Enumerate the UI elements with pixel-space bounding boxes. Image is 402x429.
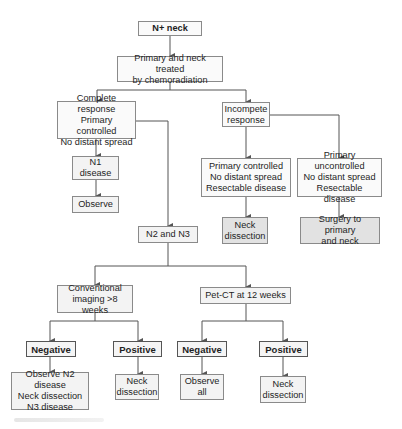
node-primary-controlled: Primary controlled No distant spread Res… [201,158,291,197]
node-neck-dissection-3: Neck dissection [260,376,306,403]
node-complete-response: Complete response Primary controlled No … [57,101,136,139]
node-positive-conventional: Positive [113,341,162,357]
node-neck-dissection-2: Neck dissection [115,374,159,400]
node-observe-all: Observe all [180,374,224,400]
node-n2-n3: N2 and N3 [138,226,198,243]
node-primary-uncontrolled: Primary uncontrolled No distant spread R… [297,158,382,197]
node-n-plus-neck: N+ neck [138,21,202,36]
node-neck-dissection-1: Neck dissection [222,217,268,244]
node-observe-n2-disease: Observe N2 disease Neck dissection N3 di… [11,372,89,410]
node-incomplete-response: Incompete response [222,102,270,127]
node-chemoradiation: Primary and neck treated by chemoradiati… [117,56,223,82]
faint-caption-smudge [14,418,104,422]
node-observe: Observe [72,196,119,213]
flowchart-canvas: N+ neck Primary and neck treated by chem… [0,0,402,429]
node-surgery-primary-neck: Surgery to primary and neck [300,217,380,244]
node-n1-disease: N1 disease [72,156,119,180]
node-positive-pet: Positive [259,341,308,357]
node-conventional-imaging: Conventional imaging >8 weeks [57,285,133,313]
node-negative-pet: Negative [177,341,227,357]
node-pet-ct: Pet-CT at 12 weeks [200,287,291,304]
node-negative-conventional: Negative [26,341,76,357]
